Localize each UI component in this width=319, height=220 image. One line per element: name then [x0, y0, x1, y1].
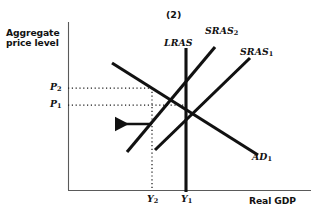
- sras2-curve-label-text: SRAS: [205, 25, 234, 36]
- price-tick-p2-text: P: [50, 81, 57, 92]
- ad1-curve-label-sub: 1: [267, 155, 272, 163]
- price-tick-p1-text: P: [50, 98, 57, 109]
- output-tick-y1-text: Y: [181, 193, 188, 204]
- output-tick-y2-sub: 2: [154, 197, 159, 205]
- sras2-curve-label: SRAS2: [205, 26, 238, 36]
- ad1-curve-label: AD1: [252, 152, 272, 162]
- lras-curve-label: LRAS: [164, 38, 193, 48]
- output-tick-y2: Y2: [147, 194, 158, 204]
- price-tick-p1: P1: [50, 99, 62, 109]
- sras2-curve-label-sub: 2: [234, 29, 239, 37]
- x-axis-label: Real GDP: [249, 196, 296, 206]
- output-tick-y1-sub: 1: [188, 197, 193, 205]
- lras-curve-label-text: LRAS: [164, 37, 193, 48]
- ad-as-diagram-figure: (2) Aggregate price level Real GDP LRAS …: [0, 0, 319, 220]
- price-tick-p1-sub: 1: [57, 102, 62, 110]
- price-tick-p2-sub: 2: [57, 85, 62, 93]
- ad1-curve-label-text: AD: [252, 151, 267, 162]
- y-axis-label-line2: price level: [6, 38, 60, 48]
- output-tick-y1: Y1: [181, 194, 192, 204]
- output-tick-y2-text: Y: [147, 193, 154, 204]
- panel-title: (2): [166, 10, 181, 21]
- y-axis-label: Aggregate price level: [6, 28, 60, 49]
- sras1-curve-label-sub: 1: [269, 50, 274, 58]
- price-tick-p2: P2: [50, 82, 62, 92]
- sras1-curve-label: SRAS1: [240, 47, 273, 57]
- sras1-curve-label-text: SRAS: [240, 46, 269, 57]
